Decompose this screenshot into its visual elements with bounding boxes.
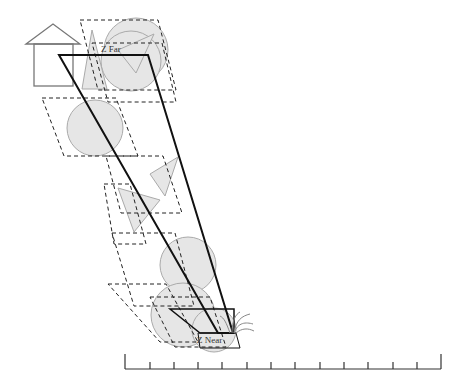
frustum-diagram: Z Far Z Near <box>0 0 459 384</box>
ruler <box>125 354 441 369</box>
z-far-label: Z Far <box>101 44 121 54</box>
z-near-label: Z Near <box>197 335 222 345</box>
